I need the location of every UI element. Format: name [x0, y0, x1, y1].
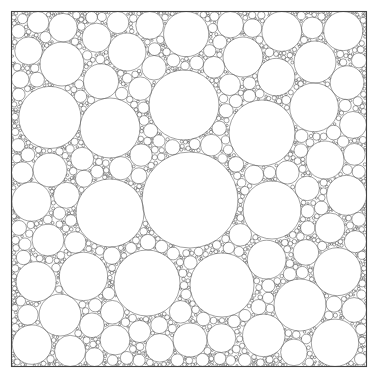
- circle-packing-canvas: [0, 0, 378, 390]
- figure-root: [0, 0, 378, 390]
- canvas-background: [0, 0, 378, 390]
